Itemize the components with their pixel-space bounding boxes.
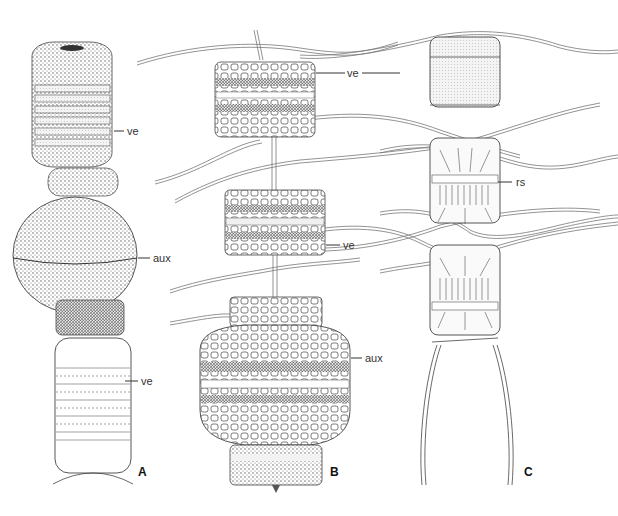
label-b-ve-top: ve: [347, 68, 359, 79]
label-c-rs: rs: [516, 177, 525, 188]
panel-letter-b: B: [330, 466, 339, 478]
label-a-ve-top: ve: [127, 126, 139, 137]
panel-c: [421, 37, 513, 485]
panel-letter-a: A: [138, 466, 147, 478]
label-a-aux: aux: [153, 253, 171, 264]
label-b-aux: aux: [365, 353, 383, 364]
label-b-ve-mid: ve: [343, 240, 355, 251]
setae-lines: [137, 30, 618, 325]
panel-b: [200, 62, 400, 493]
diatom-illustration: [0, 0, 618, 516]
label-a-ve-bottom: ve: [141, 376, 153, 387]
panel-letter-c: C: [524, 466, 533, 478]
panel-a: [13, 42, 150, 484]
